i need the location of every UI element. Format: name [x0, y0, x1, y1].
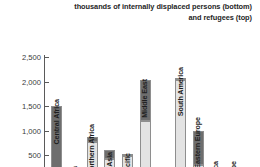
bar-label: and S. Africa	[71, 166, 78, 167]
bar-label: North America	[212, 161, 219, 167]
bar-label: Middle East	[141, 79, 148, 118]
bar-label: Eastern Europe	[194, 117, 201, 167]
bar-label: Western Europe	[230, 161, 237, 167]
bar-label: South America	[177, 67, 184, 116]
chart-root: thousands of internally displaced person…	[0, 0, 260, 167]
bar-label: Asia-Pacific	[124, 153, 131, 167]
plot-area: Central Africaand S. AfricaNorthern Afri…	[48, 40, 260, 167]
y-axis-tick-label: 2,000	[22, 77, 41, 86]
y-axis-tick-label: 1,000	[22, 126, 41, 135]
y-axis-tick-label: 2,500	[22, 53, 41, 62]
bar-label: Northern Africa	[88, 124, 95, 167]
bar-label: Central Africa	[53, 99, 60, 144]
bar-label: South Asia	[106, 152, 113, 167]
bar-segment-idp	[140, 121, 151, 167]
y-axis-tick-label: 500	[28, 151, 41, 160]
y-axis-tick-labels: 2,5002,0001,5001,000500	[0, 0, 41, 167]
y-axis-tick-label: 1,500	[22, 102, 41, 111]
